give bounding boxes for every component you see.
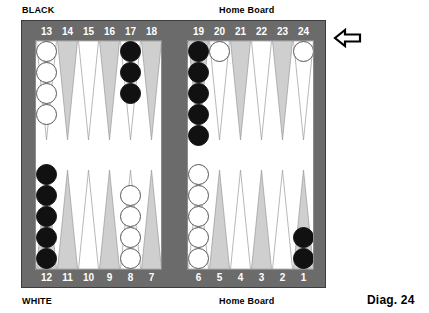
point-number-8: 8 [120,271,141,285]
black-checker[interactable] [120,41,141,62]
point-number-6: 6 [188,271,209,285]
black-checker[interactable] [36,164,57,185]
checker-stack-point-20[interactable] [209,41,230,62]
point-number-5: 5 [209,271,230,285]
black-checker[interactable] [188,83,209,104]
white-checker[interactable] [188,227,209,248]
black-checker[interactable] [36,206,57,227]
point-number-19: 19 [188,25,209,39]
checker-stack-point-6[interactable] [188,164,209,269]
checker-stack-point-24[interactable] [293,41,314,62]
point-number-18: 18 [141,25,162,39]
white-checker[interactable] [120,185,141,206]
backgammon-board: 131415161718192021222324 121110987654321 [21,20,326,288]
black-checker[interactable] [36,185,57,206]
white-checker[interactable] [188,248,209,269]
black-checker[interactable] [36,248,57,269]
point-number-22: 22 [251,25,272,39]
white-checker[interactable] [36,104,57,125]
point-4[interactable] [230,170,251,269]
point-11[interactable] [57,170,78,269]
black-checker[interactable] [188,104,209,125]
black-checker[interactable] [188,125,209,146]
point-number-3: 3 [251,271,272,285]
checker-stack-point-13[interactable] [36,41,57,125]
board-left-half [35,40,162,270]
point-number-7: 7 [141,271,162,285]
point-16[interactable] [99,41,120,140]
point-7[interactable] [141,170,162,269]
point-number-1: 1 [293,271,314,285]
white-checker[interactable] [120,227,141,248]
white-checker[interactable] [293,41,314,62]
point-9[interactable] [99,170,120,269]
arrow-left-icon [333,27,363,49]
point-15[interactable] [78,41,99,140]
white-checker[interactable] [120,248,141,269]
point-number-15: 15 [78,25,99,39]
point-number-24: 24 [293,25,314,39]
point-number-11: 11 [57,271,78,285]
white-checker[interactable] [209,41,230,62]
checker-stack-point-12[interactable] [36,164,57,269]
white-checker[interactable] [36,62,57,83]
label-home-board-bottom: Home Board [219,296,275,306]
board-right-half [187,40,314,270]
figure-caption: Diag. 24 [367,293,415,307]
black-checker[interactable] [36,227,57,248]
point-14[interactable] [57,41,78,140]
label-white: WHITE [22,296,52,306]
point-number-4: 4 [230,271,251,285]
point-number-23: 23 [272,25,293,39]
black-checker[interactable] [120,83,141,104]
point-number-14: 14 [57,25,78,39]
checker-stack-point-8[interactable] [120,185,141,269]
point-22[interactable] [251,41,272,140]
point-number-13: 13 [36,25,57,39]
checker-stack-point-1[interactable] [293,227,314,269]
point-number-21: 21 [230,25,251,39]
label-black: BLACK [22,5,55,15]
point-number-9: 9 [99,271,120,285]
white-checker[interactable] [36,83,57,104]
point-number-12: 12 [36,271,57,285]
diagram-page: BLACK Home Board WHITE Home Board Diag. … [0,0,429,313]
black-checker[interactable] [293,248,314,269]
point-2[interactable] [272,170,293,269]
black-checker[interactable] [188,62,209,83]
label-home-board-top: Home Board [219,5,275,15]
point-number-16: 16 [99,25,120,39]
white-checker[interactable] [36,41,57,62]
checker-stack-point-19[interactable] [188,41,209,146]
white-checker[interactable] [188,164,209,185]
point-3[interactable] [251,170,272,269]
point-number-20: 20 [209,25,230,39]
point-21[interactable] [230,41,251,140]
point-10[interactable] [78,170,99,269]
checker-stack-point-17[interactable] [120,41,141,104]
point-number-10: 10 [78,271,99,285]
white-checker[interactable] [188,206,209,227]
black-checker[interactable] [188,41,209,62]
white-checker[interactable] [188,185,209,206]
white-checker[interactable] [120,206,141,227]
point-5[interactable] [209,170,230,269]
black-checker[interactable] [120,62,141,83]
black-checker[interactable] [293,227,314,248]
point-18[interactable] [141,41,162,140]
point-23[interactable] [272,41,293,140]
point-number-17: 17 [120,25,141,39]
point-number-2: 2 [272,271,293,285]
